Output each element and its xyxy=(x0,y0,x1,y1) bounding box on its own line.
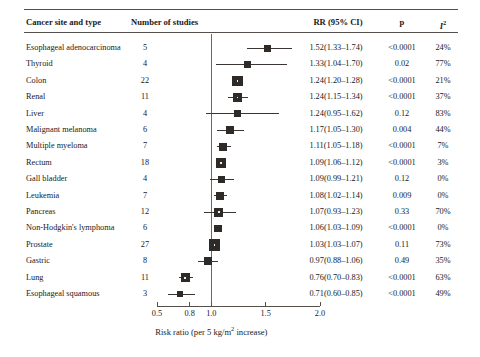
table-row: Gastric80.97(0.88–1.06)0.4935% xyxy=(0,253,480,269)
cell-p-value: 0.009 xyxy=(384,188,420,204)
cell-number-of-studies: 6 xyxy=(126,220,164,236)
cell-rr-ci: 1.09(1.06–1.12) xyxy=(296,155,376,171)
cell-i-squared: 49% xyxy=(428,286,458,302)
x-axis-tick-label: 1.0 xyxy=(191,309,231,319)
cell-cancer-site: Multiple myeloma xyxy=(26,138,88,154)
cell-rr-ci: 1.24(1.20–1.28) xyxy=(296,73,376,89)
cell-i-squared: 37% xyxy=(428,89,458,105)
cell-number-of-studies: 4 xyxy=(126,106,164,122)
table-row: Colon221.24(1.20–1.28)<0.000121% xyxy=(0,73,480,89)
cell-number-of-studies: 22 xyxy=(126,73,164,89)
cell-p-value: <0.0001 xyxy=(384,155,420,171)
cell-cancer-site: Gall bladder xyxy=(26,171,67,187)
cell-i-squared: 73% xyxy=(428,237,458,253)
cell-number-of-studies: 7 xyxy=(126,188,164,204)
cell-p-value: <0.0001 xyxy=(384,286,420,302)
x-axis-tick-label: 2.0 xyxy=(300,309,340,319)
cell-cancer-site: Liver xyxy=(26,106,44,122)
cell-p-value: 0.02 xyxy=(384,56,420,72)
cell-p-value: <0.0001 xyxy=(384,270,420,286)
cell-number-of-studies: 12 xyxy=(126,204,164,220)
cell-rr-ci: 0.76(0.70–0.83) xyxy=(296,270,376,286)
cell-number-of-studies: 8 xyxy=(126,253,164,269)
cell-p-value: 0.49 xyxy=(384,253,420,269)
cell-number-of-studies: 11 xyxy=(126,89,164,105)
x-axis-tick xyxy=(157,302,158,306)
x-axis-tick xyxy=(189,302,190,306)
cell-i-squared: 35% xyxy=(428,253,458,269)
x-axis-tick xyxy=(211,302,212,306)
table-row: Gall bladder41.09(0.99–1.21)0.120% xyxy=(0,171,480,187)
i-squared-exponent: 2 xyxy=(443,19,446,26)
table-row: Liver41.24(0.95–1.62)0.1283% xyxy=(0,106,480,122)
cell-cancer-site: Prostate xyxy=(26,237,53,253)
table-row: Lung110.76(0.70–0.83)<0.000163% xyxy=(0,270,480,286)
cell-rr-ci: 0.71(0.60–0.85) xyxy=(296,286,376,302)
table-row: Malignant melanoma61.17(1.05–1.30)0.0044… xyxy=(0,122,480,138)
cell-i-squared: 24% xyxy=(428,40,458,56)
cell-p-value: 0.12 xyxy=(384,171,420,187)
cell-rr-ci: 1.24(0.95–1.62) xyxy=(296,106,376,122)
cell-i-squared: 44% xyxy=(428,122,458,138)
cell-i-squared: 83% xyxy=(428,106,458,122)
x-axis-line xyxy=(157,306,320,307)
cell-cancer-site: Rectum xyxy=(26,155,52,171)
cell-cancer-site: Esophageal squamous xyxy=(26,286,100,302)
cell-rr-ci: 1.17(1.05–1.30) xyxy=(296,122,376,138)
cell-rr-ci: 1.33(1.04–1.70) xyxy=(296,56,376,72)
table-top-rule xyxy=(24,9,458,10)
cell-rr-ci: 1.11(1.05–1.18) xyxy=(296,138,376,154)
column-header-rr: RR (95% CI) xyxy=(300,17,376,28)
table-row: Prostate271.03(1.03–1.07)0.1173% xyxy=(0,237,480,253)
cell-i-squared: 0% xyxy=(428,220,458,236)
cell-rr-ci: 0.97(0.88–1.06) xyxy=(296,253,376,269)
cell-cancer-site: Malignant melanoma xyxy=(26,122,97,138)
cell-number-of-studies: 7 xyxy=(126,138,164,154)
cell-i-squared: 77% xyxy=(428,56,458,72)
cell-cancer-site: Gastric xyxy=(26,253,50,269)
cell-p-value: 0.004 xyxy=(384,122,420,138)
cell-p-value: 0.12 xyxy=(384,106,420,122)
cell-rr-ci: 1.03(1.03–1.07) xyxy=(296,237,376,253)
column-header-cancer-site: Cancer site and type xyxy=(26,17,101,28)
cell-cancer-site: Colon xyxy=(26,73,46,89)
cell-cancer-site: Non-Hodgkin's lymphoma xyxy=(26,220,114,236)
cell-i-squared: 63% xyxy=(428,270,458,286)
x-axis-tick xyxy=(265,302,266,306)
cell-number-of-studies: 4 xyxy=(126,56,164,72)
table-row: Esophageal squamous30.71(0.60–0.85)<0.00… xyxy=(0,286,480,302)
column-header-i-squared: I2 xyxy=(430,17,456,32)
cell-rr-ci: 1.06(1.03–1.09) xyxy=(296,220,376,236)
cell-i-squared: 0% xyxy=(428,171,458,187)
cell-number-of-studies: 11 xyxy=(126,270,164,286)
cell-cancer-site: Thyroid xyxy=(26,56,53,72)
cell-i-squared: 7% xyxy=(428,138,458,154)
x-axis-tick xyxy=(320,302,321,306)
cell-number-of-studies: 5 xyxy=(126,40,164,56)
table-row: Esophageal adenocarcinoma51.52(1.33–1.74… xyxy=(0,40,480,56)
cell-p-value: <0.0001 xyxy=(384,73,420,89)
cell-number-of-studies: 6 xyxy=(126,122,164,138)
cell-p-value: <0.0001 xyxy=(384,220,420,236)
cell-i-squared: 0% xyxy=(428,188,458,204)
cell-rr-ci: 1.24(1.15–1.34) xyxy=(296,89,376,105)
cell-rr-ci: 1.07(0.93–1.23) xyxy=(296,204,376,220)
cell-cancer-site: Renal xyxy=(26,89,45,105)
x-axis-title: Risk ratio (per 5 kg/m2 increase) xyxy=(61,323,361,338)
cell-number-of-studies: 3 xyxy=(126,286,164,302)
cell-cancer-site: Leukemia xyxy=(26,188,59,204)
table-row: Non-Hodgkin's lymphoma61.06(1.03–1.09)<0… xyxy=(0,220,480,236)
cell-p-value: <0.0001 xyxy=(384,89,420,105)
table-row: Renal111.24(1.15–1.34)<0.000137% xyxy=(0,89,480,105)
cell-i-squared: 70% xyxy=(428,204,458,220)
cell-rr-ci: 1.09(0.99–1.21) xyxy=(296,171,376,187)
cell-p-value: <0.0001 xyxy=(384,138,420,154)
cell-p-value: 0.33 xyxy=(384,204,420,220)
table-row: Pancreas121.07(0.93–1.23)0.3370% xyxy=(0,204,480,220)
cell-p-value: <0.0001 xyxy=(384,40,420,56)
cell-p-value: 0.11 xyxy=(384,237,420,253)
table-header-rule xyxy=(24,32,458,33)
cell-rr-ci: 1.08(1.02–1.14) xyxy=(296,188,376,204)
cell-cancer-site: Pancreas xyxy=(26,204,56,220)
cell-cancer-site: Lung xyxy=(26,270,44,286)
